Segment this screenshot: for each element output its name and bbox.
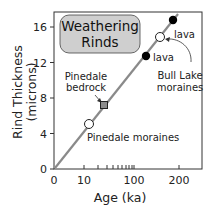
label-pinedale-bedrock-line2: bedrock xyxy=(66,82,106,93)
point-lava-lower xyxy=(142,52,150,60)
chart-title-line1: Weathering xyxy=(61,18,139,34)
y-tick-4: 4 xyxy=(40,128,47,141)
x-tick-100: 100 xyxy=(124,174,145,187)
y-tick-8: 8 xyxy=(40,92,47,105)
label-pinedale-bedrock-line1: Pinedale xyxy=(65,71,108,82)
x-axis-label: Age (ka) xyxy=(94,190,147,205)
x-axis-ticks xyxy=(84,165,179,169)
x-tick-200: 200 xyxy=(169,174,190,187)
point-bull-lake-moraines xyxy=(156,33,165,42)
point-pinedale-moraines xyxy=(85,120,94,129)
point-lava-upper xyxy=(169,16,177,24)
x-axis-tick-labels: 0 10 100 200 xyxy=(51,174,190,187)
label-lava-lower: lava xyxy=(153,52,174,63)
y-axis-label-line1: Rind Thickness xyxy=(10,45,25,139)
label-bull-lake-line1: Bull Lake xyxy=(157,70,202,81)
y-axis-label-line2: (microns) xyxy=(24,62,39,121)
bull-lake-arrowhead xyxy=(165,37,170,42)
x-tick-10: 10 xyxy=(77,174,91,187)
y-axis-ticks xyxy=(50,27,54,169)
label-lava-upper: lava xyxy=(174,29,195,40)
point-pinedale-bedrock xyxy=(101,102,108,109)
label-pinedale-moraines: Pinedale moraines xyxy=(87,132,179,143)
x-tick-0: 0 xyxy=(51,174,58,187)
y-tick-0: 0 xyxy=(40,163,47,176)
chart-title-line2: Rinds xyxy=(81,34,118,50)
chart-canvas: 0 4 8 12 16 0 10 100 200 Age (ka) Rind T… xyxy=(0,0,211,213)
label-bull-lake-line2: moraines xyxy=(157,82,204,93)
y-tick-16: 16 xyxy=(33,21,47,34)
